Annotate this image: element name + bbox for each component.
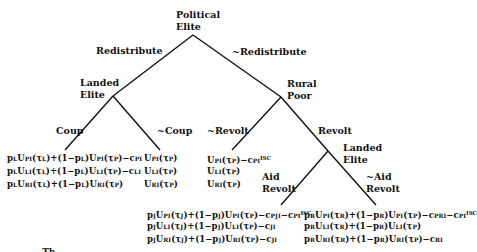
edge-label-not-revolt: ~Revolt xyxy=(207,125,249,137)
node-label: Landed xyxy=(80,77,119,89)
node-label: Elite xyxy=(176,21,220,33)
node-political-elite: Political Elite xyxy=(176,9,220,33)
payoff-line: pRURI(τR)+(1−pR)URI(τP)−cRI xyxy=(304,233,477,246)
payoff-line: UPI(τP) xyxy=(144,152,178,165)
edge-revolt xyxy=(281,97,328,151)
payoff-line: pJUPI(τJ)+(1−pJ)UPI(τP)−cPJI−cPIISC xyxy=(147,207,311,220)
payoff-line: pLURI(τL)+(1−pL)URI(τP) xyxy=(7,178,142,191)
node-label: Landed xyxy=(343,142,382,154)
edge-label-line: Revolt xyxy=(366,183,400,195)
payoff-line: pRUPI(τR)+(1−pR)UPI(τP)−cPRI−cPIISC xyxy=(304,207,477,220)
edge-label-not-aid-revolt: ~Aid Revolt xyxy=(366,171,400,195)
edge-not-redistribute xyxy=(193,35,281,97)
node-label: Elite xyxy=(343,154,382,166)
edge-not-coup xyxy=(113,96,160,150)
payoff-line: URI(τP) xyxy=(144,178,178,191)
payoff-not-aid-revolt: pRUPI(τR)+(1−pR)UPI(τP)−cPRI−cPIISC pRUL… xyxy=(304,207,477,246)
payoff-line: pLUPI(τL)+(1−pL)UPI(τP)−cPI xyxy=(7,152,142,165)
edge-label-not-coup: ~Coup xyxy=(157,125,192,137)
node-label: Poor xyxy=(287,90,317,102)
caption-fragment: … Th… xyxy=(30,245,200,252)
edge-label-revolt: Revolt xyxy=(318,125,352,137)
edge-label-redistribute: Redistribute xyxy=(96,45,163,57)
edge-not-revolt xyxy=(232,97,281,150)
node-landed-elite-1: Landed Elite xyxy=(80,77,119,101)
payoff-aid-revolt: pJUPI(τJ)+(1−pJ)UPI(τP)−cPJI−cPIISC pJUL… xyxy=(147,207,311,246)
payoff-coup: pLUPI(τL)+(1−pL)UPI(τP)−cPI pLULI(τL)+(1… xyxy=(7,152,142,191)
node-landed-elite-2: Landed Elite xyxy=(343,142,382,166)
payoff-line: URI(τP) xyxy=(207,178,271,191)
edge-label-coup: Coup xyxy=(56,125,83,137)
edge-label-line: ~Aid xyxy=(366,171,400,183)
payoff-line: pJULI(τJ)+(1−pJ)ULI(τP)−cJI xyxy=(147,220,311,233)
node-rural-poor: Rural Poor xyxy=(287,78,317,102)
payoff-line: UPI(τP)−cPIISC xyxy=(207,152,271,165)
node-label: Rural xyxy=(287,78,317,90)
payoff-line: ULI(τP) xyxy=(207,165,271,178)
node-label: Elite xyxy=(80,89,119,101)
payoff-not-coup: UPI(τP) ULI(τP) URI(τP) xyxy=(144,152,178,191)
payoff-line: ULI(τP) xyxy=(144,165,178,178)
node-label: Political xyxy=(176,9,220,21)
payoff-line: pLULI(τL)+(1−pL)ULI(τP)−cLI xyxy=(7,165,142,178)
payoff-not-revolt: UPI(τP)−cPIISC ULI(τP) URI(τP) xyxy=(207,152,271,191)
edge-label-not-redistribute: ~Redistribute xyxy=(232,46,306,58)
edge-coup xyxy=(65,96,113,150)
payoff-line: pRULI(τR)+(1−pR)ULI(τP) xyxy=(304,220,477,233)
